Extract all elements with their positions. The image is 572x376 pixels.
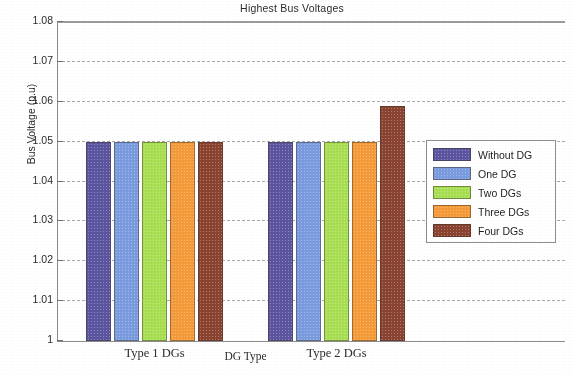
- legend-label: Without DG: [478, 149, 532, 161]
- legend-item: One DG: [427, 164, 555, 183]
- y-axis-tick-label: 1.03: [9, 213, 53, 225]
- y-axis-tick-label: 1.01: [9, 293, 53, 305]
- legend: Without DGOne DGTwo DGsThree DGsFour DGs: [426, 140, 556, 243]
- legend-item: Four DGs: [427, 221, 555, 240]
- legend-item: Without DG: [427, 145, 555, 164]
- y-axis-title-text: Bus Voltage (p.u): [25, 84, 37, 165]
- x-axis-title: DG Type: [191, 350, 301, 362]
- legend-swatch: [433, 148, 471, 161]
- legend-label: Four DGs: [478, 225, 524, 237]
- bar: [170, 142, 195, 341]
- bar: [142, 142, 167, 341]
- legend-label: One DG: [478, 168, 517, 180]
- bar: [352, 142, 377, 341]
- legend-swatch: [433, 205, 471, 218]
- legend-item: Three DGs: [427, 202, 555, 221]
- legend-swatch: [433, 167, 471, 180]
- legend-label: Three DGs: [478, 206, 529, 218]
- bar: [324, 142, 349, 341]
- chart-title: Highest Bus Voltages: [0, 2, 572, 14]
- y-axis-title: Bus Voltage (p.u): [25, 39, 37, 209]
- chart-title-text: Highest Bus Voltages: [240, 2, 344, 14]
- legend-swatch: [433, 224, 471, 237]
- y-axis-tick-label: 1: [9, 333, 53, 345]
- bar: [268, 142, 293, 341]
- y-axis-tick-label: 1.08: [9, 14, 53, 26]
- bar-chart-figure: Highest Bus Voltages 11.011.021.031.041.…: [0, 0, 572, 376]
- bar: [198, 142, 223, 341]
- y-axis-tick-label: 1.02: [9, 253, 53, 265]
- bar: [296, 142, 321, 341]
- x-axis-title-text: DG Type: [224, 350, 266, 362]
- legend-swatch: [433, 186, 471, 199]
- legend-item: Two DGs: [427, 183, 555, 202]
- x-axis-line: [57, 341, 565, 342]
- bar: [114, 142, 139, 341]
- bar: [86, 142, 111, 341]
- bar: [380, 106, 405, 341]
- legend-label: Two DGs: [478, 187, 521, 199]
